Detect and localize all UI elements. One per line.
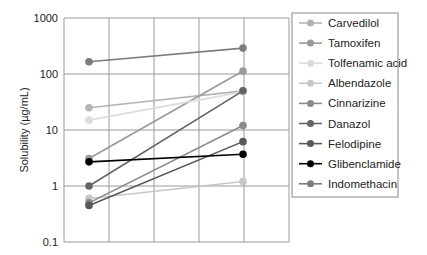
legend-label: Tamoxifen (328, 37, 380, 49)
legend-marker-icon (307, 60, 314, 67)
legend-label: Indomethacin (328, 178, 397, 190)
legend-label: Felodipine (328, 138, 381, 150)
data-point (239, 67, 247, 75)
legend-marker-icon (307, 80, 314, 87)
legend-marker-icon (307, 120, 314, 127)
data-point (239, 138, 247, 146)
legend-marker-icon (307, 180, 314, 187)
legend-marker-icon (307, 20, 314, 27)
data-point (239, 122, 247, 130)
legend-label: Glibenclamide (328, 158, 401, 170)
solubility-chart: 10001001010.1 Solubility (µg/mL) Carvedi… (0, 0, 427, 255)
legend-marker-icon (307, 140, 314, 147)
legend-marker-icon (307, 160, 314, 167)
data-point (85, 182, 93, 190)
data-point (239, 44, 247, 52)
legend-label: Albendazole (328, 77, 391, 89)
legend-marker-icon (307, 40, 314, 47)
y-axis-ticks: 10001001010.1 (34, 12, 58, 248)
data-point (85, 202, 93, 210)
data-point (85, 58, 93, 66)
data-point (239, 87, 247, 95)
y-axis-label: Solubility (µg/mL) (18, 87, 30, 172)
data-point (239, 178, 247, 186)
legend-label: Tolfenamic acid (328, 57, 407, 69)
plot-grid (64, 18, 289, 242)
y-tick-label: 1 (52, 180, 58, 192)
data-point (85, 104, 93, 112)
legend-label: Cinnarizine (328, 97, 386, 109)
legend-marker-icon (307, 100, 314, 107)
data-point (85, 158, 93, 166)
legend: CarvedilolTamoxifenTolfenamic acidAlbend… (292, 13, 407, 197)
y-tick-label: 1000 (34, 12, 58, 24)
y-tick-label: 10 (46, 124, 58, 136)
data-point (85, 116, 93, 124)
y-tick-label: 100 (40, 68, 58, 80)
y-tick-label: 0.1 (43, 236, 58, 248)
data-point (239, 150, 247, 158)
legend-label: Danazol (328, 118, 370, 130)
legend-label: Carvedilol (328, 17, 379, 29)
